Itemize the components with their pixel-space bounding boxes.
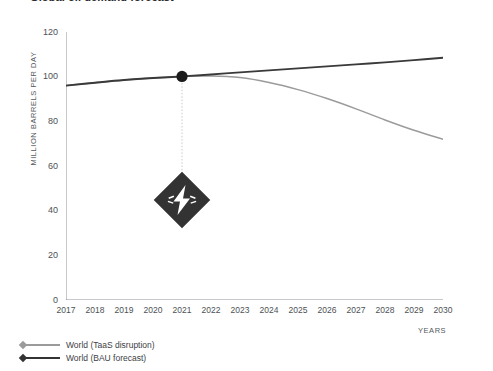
legend-marker-taas (19, 340, 27, 348)
disruption-point-marker (176, 71, 187, 82)
legend-item-taas[interactable]: World (TaaS disruption) (20, 338, 155, 351)
plot-svg (66, 32, 443, 300)
legend-line-taas (24, 344, 60, 346)
disruption-badge (148, 166, 216, 234)
y-tick-label: 0 (32, 296, 58, 305)
legend-label-taas: World (TaaS disruption) (66, 340, 155, 350)
y-tick-label: 60 (32, 162, 58, 171)
y-tick-label: 20 (32, 251, 58, 260)
lightning-bolt-diamond-icon (148, 166, 216, 234)
legend-key-bau (20, 351, 66, 364)
series-line-taas (66, 76, 443, 139)
page-title: Global oil demand forecast (30, 0, 174, 3)
legend-line-bau (24, 357, 60, 359)
legend-label-bau: World (BAU forecast) (66, 353, 146, 363)
legend: World (TaaS disruption) World (BAU forec… (20, 338, 155, 364)
y-tick-label: 40 (32, 206, 58, 215)
series-line-bau (66, 58, 443, 86)
legend-item-bau[interactable]: World (BAU forecast) (20, 351, 155, 364)
y-tick-label: 100 (32, 72, 58, 81)
legend-marker-bau (19, 353, 27, 361)
x-axis-label: YEARS (418, 326, 446, 335)
y-tick-label: 120 (32, 28, 58, 37)
legend-key-taas (20, 338, 66, 351)
plot-area (66, 32, 443, 300)
y-tick-label: 80 (32, 117, 58, 126)
chart-container: Global oil demand forecast MILLION BARRE… (0, 0, 493, 371)
x-tick-label: 2030 (423, 306, 463, 315)
